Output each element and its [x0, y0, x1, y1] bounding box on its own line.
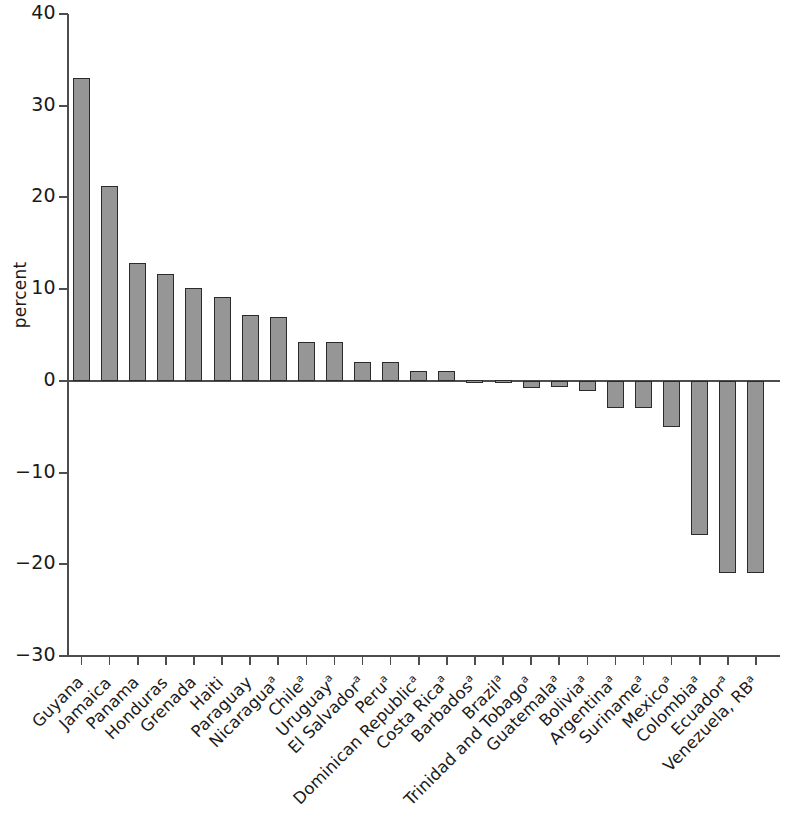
bar	[410, 371, 427, 381]
bar	[523, 381, 540, 388]
bar	[635, 381, 652, 409]
bar	[466, 380, 483, 383]
bar	[579, 381, 596, 391]
bar	[129, 263, 146, 380]
bar-chart: percent 403020100−10−20−30 GuyanaJamaica…	[0, 0, 786, 816]
bar	[747, 381, 764, 574]
bar	[719, 381, 736, 574]
bar	[101, 186, 118, 380]
bar	[438, 371, 455, 381]
bar	[382, 362, 399, 381]
bar	[551, 381, 568, 387]
bar	[326, 342, 343, 381]
plot-area	[68, 8, 780, 668]
bar	[607, 381, 624, 409]
bar	[157, 274, 174, 381]
bar	[663, 381, 680, 427]
bar	[270, 317, 287, 381]
bar	[185, 288, 202, 381]
bar	[354, 362, 371, 381]
bar	[242, 315, 259, 381]
bar	[691, 381, 708, 535]
bar	[214, 297, 231, 380]
bar	[73, 78, 90, 381]
bar	[495, 380, 512, 383]
bar	[298, 342, 315, 381]
